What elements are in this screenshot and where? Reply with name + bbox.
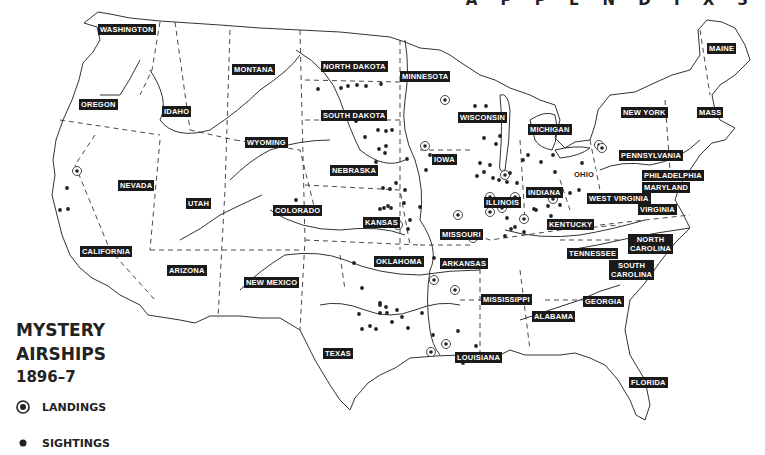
- map-title-line1: MYSTERY: [16, 320, 105, 340]
- state-label-maryland: MARYLAND: [642, 182, 690, 193]
- state-label-west-virginia: WEST VIRGINIA: [587, 193, 651, 204]
- sighting-marker: [379, 82, 383, 86]
- sighting-marker: [505, 216, 509, 220]
- sighting-marker: [65, 186, 69, 190]
- sightings-markers: [58, 82, 584, 365]
- sighting-marker: [383, 151, 387, 155]
- sighting-marker: [522, 230, 526, 234]
- state-label-florida: FLORIDA: [629, 377, 668, 388]
- sighting-marker: [405, 157, 409, 161]
- sighting-marker: [360, 327, 364, 331]
- sighting-marker: [515, 181, 519, 185]
- sighting-marker: [378, 207, 382, 211]
- legend-sightings: SIGHTINGS: [16, 436, 110, 450]
- state-label-missouri: MISSOURI: [440, 229, 483, 240]
- legend-sightings-label: SIGHTINGS: [42, 437, 110, 450]
- sighting-marker: [355, 83, 359, 87]
- sighting-marker: [389, 206, 393, 210]
- legend-landings: LANDINGS: [16, 400, 106, 414]
- sighting-marker: [526, 153, 530, 157]
- sighting-marker: [377, 147, 381, 151]
- state-label-pennsylvania: PENNSYLVANIA: [619, 150, 683, 161]
- sighting-marker: [546, 204, 550, 208]
- state-label-alabama: ALABAMA: [532, 311, 575, 322]
- sighting-marker: [534, 208, 538, 212]
- state-label-wisconsin: WISCONSIN: [458, 112, 507, 123]
- sighting-marker: [360, 286, 364, 290]
- sighting-marker: [294, 198, 298, 202]
- state-label-oregon: OREGON: [79, 99, 118, 110]
- sighting-marker: [316, 87, 320, 91]
- state-label-new-york: NEW YORK: [621, 107, 668, 118]
- state-label-washington: WASHINGTON: [98, 24, 156, 35]
- sighting-marker: [497, 178, 501, 182]
- sighting-marker: [384, 129, 388, 133]
- state-label-wyoming: WYOMING: [245, 137, 288, 148]
- landing-marker: [427, 348, 436, 357]
- sighting-marker: [475, 174, 479, 178]
- sighting-marker: [400, 315, 404, 319]
- sighting-marker: [406, 227, 410, 231]
- state-label-michigan: MICHIGAN: [528, 124, 572, 135]
- sighting-marker: [473, 104, 477, 108]
- sighting-marker: [408, 218, 412, 222]
- sighting-marker: [549, 214, 553, 218]
- sighting-marker: [58, 208, 62, 212]
- state-label-utah: UTAH: [186, 198, 211, 209]
- sighting-marker: [456, 329, 460, 333]
- legend-landings-label: LANDINGS: [42, 401, 106, 414]
- landing-marker: [486, 208, 495, 217]
- state-label-minnesota: MINNESOTA: [400, 71, 450, 82]
- landing-marker: [454, 211, 463, 220]
- sighting-marker: [374, 327, 378, 331]
- sighting-marker: [432, 256, 436, 260]
- sighting-marker: [390, 128, 394, 132]
- sighting-marker: [580, 161, 584, 165]
- sighting-marker: [403, 188, 407, 192]
- sighting-marker: [577, 188, 581, 192]
- state-label-illinois: ILLINOIS: [484, 197, 521, 208]
- sighting-marker: [418, 205, 422, 209]
- sighting-marker: [482, 136, 486, 140]
- sighting-marker: [357, 312, 361, 316]
- sighting-marker: [521, 158, 525, 162]
- landing-marker: [501, 171, 510, 180]
- sighting-marker: [381, 186, 385, 190]
- sighting-marker: [505, 180, 509, 184]
- state-label-idaho: IDAHO: [162, 106, 191, 117]
- sighting-marker: [374, 160, 378, 164]
- sighting-marker: [378, 311, 382, 315]
- sighting-marker: [431, 333, 435, 337]
- sighting-marker: [363, 135, 367, 139]
- sighting-marker: [513, 225, 517, 229]
- state-label-mass: MASS: [697, 107, 723, 118]
- sighting-marker: [378, 303, 382, 307]
- sighting-marker: [482, 170, 486, 174]
- landing-marker: [421, 142, 430, 151]
- sighting-marker: [509, 227, 513, 231]
- landing-marker: [430, 276, 439, 285]
- sighting-marker: [508, 171, 512, 175]
- sighting-marker: [376, 128, 380, 132]
- sighting-marker: [346, 84, 350, 88]
- state-label-oklahoma: OKLAHOMA: [374, 256, 424, 267]
- state-label-maine: MAINE: [707, 43, 736, 54]
- sighting-marker: [339, 86, 343, 90]
- state-label-colorado: COLORADO: [273, 205, 322, 216]
- sighting-marker: [394, 181, 398, 185]
- state-label-mississippi: MISSISSIPPI: [481, 294, 532, 305]
- sighting-marker: [368, 324, 372, 328]
- sighting-marker: [420, 311, 424, 315]
- state-label-ohio: OHIO: [572, 169, 596, 180]
- state-label-arkansas: ARKANSAS: [440, 258, 488, 269]
- state-label-nebraska: NEBRASKA: [330, 165, 378, 176]
- map-title-line3: 1896–7: [16, 368, 76, 386]
- state-label-texas: TEXAS: [323, 348, 353, 359]
- sighting-marker: [484, 104, 488, 108]
- state-label-south-carolina: SOUTHCAROLINA: [609, 260, 654, 280]
- landing-marker: [598, 144, 607, 153]
- landing-marker: [441, 96, 450, 105]
- sighting-marker: [390, 320, 394, 324]
- landing-marker: [73, 167, 82, 176]
- sighting-marker: [384, 305, 388, 309]
